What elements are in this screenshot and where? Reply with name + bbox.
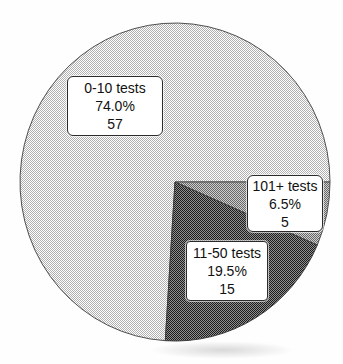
- callout-0-10-percent: 74.0%: [68, 97, 162, 115]
- callout-11-50-label: 11-50 tests: [187, 244, 267, 262]
- callout-101-plus-label: 101+ tests: [248, 177, 322, 195]
- callout-11-50-percent: 19.5%: [187, 262, 267, 280]
- callout-0-10-label: 0-10 tests: [68, 79, 162, 97]
- callout-11-50-count: 15: [187, 280, 267, 298]
- pie-chart: 0-10 tests 74.0% 57 101+ tests 6.5% 5 11…: [0, 0, 343, 364]
- callout-0-10-tests: 0-10 tests 74.0% 57: [67, 76, 163, 136]
- callout-101-plus-tests: 101+ tests 6.5% 5: [247, 175, 323, 232]
- callout-0-10-count: 57: [68, 115, 162, 133]
- callout-101-plus-count: 5: [248, 213, 322, 231]
- callout-11-50-tests: 11-50 tests 19.5% 15: [186, 241, 268, 301]
- callout-101-plus-percent: 6.5%: [248, 195, 322, 213]
